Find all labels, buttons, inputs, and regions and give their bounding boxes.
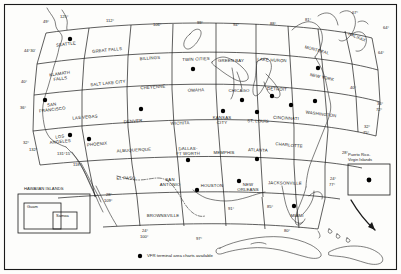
coordinate-label: 40°: [21, 79, 27, 84]
coordinate-label: 125°: [60, 14, 68, 19]
tac-dot-detroit: [270, 94, 274, 98]
tac-dot-atlanta: [255, 157, 259, 161]
chart-label-new-orleans: NEWORLEANS: [237, 182, 259, 192]
hawaiian-islands-inset: [18, 194, 90, 233]
samoa-label: Samoa: [56, 213, 69, 218]
coordinate-label: 91°: [228, 206, 234, 211]
tac-dot-phoenix: [87, 137, 91, 141]
coordinate-label: 99°: [197, 20, 203, 25]
chart-label-jacksonville: JACKSONVILLE: [268, 180, 302, 186]
guam-label: Guam: [27, 204, 38, 209]
tac-dot-chicago: [240, 98, 244, 102]
tac-dot-washington: [313, 99, 317, 103]
coordinate-label: 28°: [106, 192, 112, 197]
coordinate-label: 88°: [270, 21, 276, 26]
tac-dot-cincinnati: [289, 103, 293, 107]
coordinate-label: 24°: [142, 228, 148, 233]
coordinate-label: 97°: [196, 236, 202, 241]
coordinate-label: 112°: [106, 18, 114, 23]
puerto-rico-title-line2: Virgin Islands: [348, 157, 372, 162]
coordinate-label: 131°15': [57, 151, 71, 156]
tac-dot-dallas-ft-worth: [186, 158, 190, 162]
chart-label-kansas-city: KANSASCITY: [213, 115, 231, 125]
puerto-rico-inset: [348, 164, 390, 230]
coordinate-label: 80°: [284, 228, 290, 233]
coordinate-label: 49°: [43, 19, 49, 24]
coordinate-label: 24°: [330, 176, 336, 181]
tac-dot-houston: [195, 188, 199, 192]
chart-label-san-antonio: SANANTONIO: [160, 177, 181, 187]
coordinate-label: 67°: [352, 10, 358, 15]
coordinate-label: 44°30': [24, 48, 36, 53]
legend-marker-icon: [138, 254, 142, 258]
chart-label-miami: MIAMI: [290, 213, 303, 218]
coordinate-label: 106°: [153, 22, 161, 27]
coordinate-label: 81°: [305, 17, 311, 22]
coordinate-label: 32°: [23, 140, 29, 145]
coordinate-label: 132°: [29, 147, 37, 152]
tac-dot-miami: [292, 204, 296, 208]
coordinate-label: 77°: [329, 182, 335, 187]
legend-text: VFR terminal area charts available: [147, 253, 213, 258]
coordinate-label: 40°: [350, 85, 356, 90]
puerto-rico-tac-dot: [367, 178, 372, 183]
chart-label-houston: HOUSTON: [201, 183, 223, 188]
tac-dot-denver: [139, 107, 143, 111]
coordinate-label: 100°: [140, 234, 148, 239]
coordinate-label: 85°: [267, 204, 273, 209]
sectional-chart-index-map: SEATTLEGREAT FALLSBILLINGSTWIN CITIESGRE…: [0, 0, 401, 274]
hawaiian-islands-title: HAWAIIAN ISLANDS: [24, 186, 63, 191]
chart-label-green-bay: GREEN BAY: [218, 58, 244, 63]
coordinate-label: 75°: [363, 130, 369, 135]
coordinate-label: 94°: [233, 22, 239, 27]
chart-label-atlanta: ATLANTA: [248, 147, 268, 153]
chart-label-brownsville: BROWNSVILLE: [147, 213, 180, 218]
chart-label-omaha: OMAHA: [188, 87, 205, 93]
coastline-outlines: [43, 8, 383, 264]
chart-label-wichita: WICHITA: [170, 120, 189, 126]
coordinate-label: 109°: [104, 198, 112, 203]
coordinate-label: 64°: [383, 25, 389, 30]
coordinate-label: 36°: [377, 101, 383, 106]
chart-label-memphis: MEMPHIS: [213, 150, 234, 155]
coordinate-label: 118°: [73, 162, 81, 167]
tac-dot-new-york: [316, 66, 320, 70]
coordinate-label: 64°: [378, 50, 384, 55]
chart-label-dallas-ft-worth: DALLAS-FT WORTH: [176, 146, 200, 156]
chart-label-chicago: CHICAGO: [228, 88, 249, 93]
tac-dot-kansas-city: [221, 109, 225, 113]
coordinate-label: 32°: [364, 124, 370, 129]
tac-dot-st-louis: [255, 110, 259, 114]
coordinate-label: 36°: [20, 105, 26, 110]
tac-dot-twin-cities: [191, 67, 195, 71]
chart-label-el-paso: EL PASO: [116, 175, 135, 180]
coordinate-label: 72°: [376, 107, 382, 112]
chart-label-twin-cities: TWIN CITIES: [182, 56, 210, 62]
chart-label-detroit: DETROIT: [267, 86, 287, 92]
chart-label-st-louis: ST. LOUIS: [247, 118, 269, 123]
